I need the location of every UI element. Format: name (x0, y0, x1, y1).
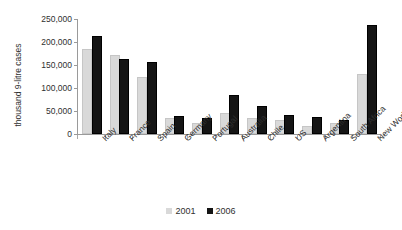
legend-entry[interactable]: 2001 (166, 206, 195, 216)
legend-swatch-icon (207, 208, 213, 214)
x-axis-category-label: Chile (265, 136, 272, 143)
bar (110, 55, 120, 134)
y-axis-tick-label: 200,000 (24, 38, 72, 47)
bar (284, 115, 294, 134)
legend-entry[interactable]: 2006 (207, 206, 236, 216)
x-axis-category-label: Australia (238, 136, 245, 143)
legend-label: 2001 (175, 206, 195, 216)
x-axis-category-labels: ItalyFranceSpainGermanyPortugalAustralia… (77, 136, 402, 196)
y-axis-tick-label: 100,000 (24, 84, 72, 93)
bar (82, 49, 92, 134)
y-axis-tick-label: 0 (24, 130, 72, 139)
bar (92, 36, 102, 134)
x-axis-category-label: Italy (100, 136, 107, 143)
x-axis-category-label: South Africa (348, 136, 355, 143)
bar (119, 59, 129, 134)
x-axis-category-label: Portugal (210, 136, 217, 143)
x-axis-category-label: New World (375, 136, 382, 143)
bar (312, 117, 322, 134)
bar-chart: thousand 9-litre cases 250,000200,000150… (0, 0, 402, 230)
x-axis-category-label: France (127, 136, 134, 143)
x-axis-category-label: Spain (155, 136, 162, 143)
y-axis-tick-label: 50,000 (24, 107, 72, 116)
legend-swatch-icon (166, 208, 172, 214)
chart-legend: 20012006 (0, 203, 402, 219)
legend-label: 2006 (216, 206, 236, 216)
y-axis-tick-label: 150,000 (24, 61, 72, 70)
x-axis-category-label: Germany (182, 136, 189, 143)
x-axis-category-label: Argentina (320, 136, 327, 143)
y-axis-tick-labels: 250,000200,000150,000100,00050,0000 (24, 12, 72, 138)
x-axis-category-label: US (293, 136, 300, 143)
y-axis-tick-label: 250,000 (24, 15, 72, 24)
